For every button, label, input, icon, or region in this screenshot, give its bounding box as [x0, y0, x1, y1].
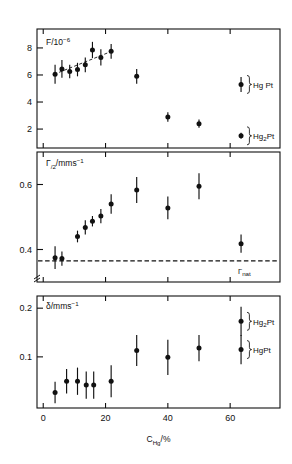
panel-bottom-ylabel-exponent: −1 — [72, 300, 80, 307]
bottom-data-delta-point-0 — [53, 390, 58, 395]
bottom-data-delta-point-1 — [64, 379, 69, 384]
bottom-data-delta-point-6 — [134, 348, 139, 353]
xtick-label-2: 40 — [163, 413, 173, 423]
ytick-label-top-3: 8 — [27, 43, 32, 53]
top-legend-marker-hg2pt-point-0 — [239, 133, 244, 138]
bottom-legend-entry-label-0: Hg2Pt — [253, 318, 275, 328]
top-legend-marker-hgpt — [239, 77, 244, 92]
bottom-data-delta-point-8 — [197, 346, 202, 351]
top-legend-entry-label-main-1: Hg — [253, 132, 263, 141]
bottom-data-delta-point-5 — [109, 379, 114, 384]
bottom-legend-marker-hg2pt — [239, 307, 244, 336]
panel-frame-top — [37, 29, 280, 148]
xtick-label-1: 20 — [101, 413, 111, 423]
panel-bottom-ylabel-main: δ/mms — [46, 301, 72, 311]
middle-data-gamma-point-10 — [239, 241, 244, 246]
bottom-legend-marker-hgpt — [239, 335, 244, 364]
top-legend-entry-brace-0 — [247, 75, 252, 93]
bottom-data-delta-point-7 — [165, 355, 170, 360]
middle-data-gamma — [53, 173, 244, 269]
middle-data-gamma-point-9 — [197, 184, 202, 189]
bottom-data-delta-point-4 — [91, 383, 96, 388]
top-data-F-point-10 — [197, 121, 202, 126]
top-legend-entry-label-tail-1: Pt — [267, 132, 275, 141]
panel-top-ylabel-exponent: −6 — [63, 36, 71, 43]
ytick-label-top-2: 6 — [27, 70, 32, 80]
top-data-F-point-9 — [165, 114, 170, 119]
top-legend-entry-1: Hg2Pt — [247, 127, 275, 145]
gamma-nat-label-sub: nat — [242, 270, 251, 277]
top-legend-entry-label-1: Hg2Pt — [253, 132, 275, 142]
xtick-label-0: 0 — [41, 413, 46, 423]
bottom-legend-entry-label-1: HgPt — [253, 346, 272, 355]
top-legend-entry-label-0: Hg Pt — [253, 81, 274, 90]
top-data-F-point-4 — [83, 62, 88, 67]
top-data-F-point-2 — [67, 69, 72, 74]
top-legend-entry-brace-1 — [247, 127, 252, 145]
ytick-label-bottom-0: 0.1 — [19, 352, 32, 362]
mossbauer-parameters-figure: 24680.40.60.10.2F/10−6Γ/2/mms−1Γnatδ/mms… — [0, 0, 292, 464]
middle-data-gamma-point-4 — [90, 219, 95, 224]
top-legend-marker-hg2pt — [239, 133, 244, 139]
ytick-label-middle-0: 0.4 — [19, 245, 32, 255]
top-data-F-point-8 — [134, 74, 139, 79]
panel-top: 2468 — [27, 29, 280, 148]
xtick-label-3: 60 — [225, 413, 235, 423]
bottom-legend-marker-hgpt-point-0 — [239, 347, 244, 352]
bottom-data-delta — [53, 335, 202, 403]
panel-top-ylabel: F/10−6 — [46, 36, 71, 47]
panel-frame-bottom — [37, 296, 280, 408]
top-data-F-point-3 — [75, 67, 80, 72]
middle-data-gamma-point-7 — [134, 188, 139, 193]
bottom-legend-marker-hg2pt-point-0 — [239, 319, 244, 324]
panel-middle-ylabel-exponent: −1 — [77, 157, 85, 164]
top-legend-entry-0: Hg Pt — [247, 75, 274, 93]
bottom-legend-entry-1: HgPt — [247, 341, 272, 359]
middle-data-gamma-point-2 — [75, 234, 80, 239]
top-legend-marker-hgpt-point-0 — [239, 82, 244, 87]
gamma-nat-label: Γnat — [238, 267, 251, 277]
top-data-F-point-5 — [90, 47, 95, 52]
panel-middle-ylabel: Γ/2/mms−1 — [46, 157, 84, 170]
bottom-legend-entry-label-main-0: Hg — [253, 318, 263, 327]
bottom-legend-entry-label-tail-0: Pt — [267, 318, 275, 327]
xaxis-label: CHg/% — [147, 434, 171, 446]
panel-frame-middle — [37, 152, 280, 282]
panel-middle: 0.40.6 — [19, 152, 280, 282]
bottom-legend-entry-label-main-1: HgPt — [253, 346, 272, 355]
panel-top-ylabel-main: F/10 — [46, 37, 63, 47]
middle-data-gamma-point-6 — [109, 202, 114, 207]
xaxis-label-unit: /% — [161, 434, 171, 444]
bottom-legend-entry-brace-0 — [247, 312, 252, 330]
figure-container: 24680.40.60.10.2F/10−6Γ/2/mms−1Γnatδ/mms… — [0, 0, 292, 464]
middle-data-gamma-point-8 — [165, 205, 170, 210]
bottom-data-delta-point-3 — [84, 383, 89, 388]
panel-middle-ylabel-unit: /mms — [56, 158, 77, 168]
middle-data-gamma-point-3 — [83, 225, 88, 230]
ytick-label-bottom-1: 0.2 — [19, 303, 32, 313]
bottom-legend-entry-brace-1 — [247, 341, 252, 359]
ytick-label-middle-1: 0.6 — [19, 180, 32, 190]
bottom-data-delta-point-2 — [75, 379, 80, 384]
middle-data-gamma-point-5 — [98, 214, 103, 219]
ytick-label-top-1: 4 — [27, 97, 32, 107]
labels-group: F/10−6Γ/2/mms−1Γnatδ/mms−10204060CHg/%Hg… — [41, 36, 275, 446]
top-data-F-point-1 — [59, 66, 64, 71]
panel-bottom-ylabel: δ/mms−1 — [46, 300, 79, 311]
middle-data-gamma-point-0 — [53, 255, 58, 260]
top-legend-entry-label-main-0: Hg Pt — [253, 81, 274, 90]
ytick-label-top-0: 2 — [27, 124, 32, 134]
bottom-legend-entry-0: Hg2Pt — [247, 312, 275, 330]
top-data-F — [53, 42, 202, 128]
